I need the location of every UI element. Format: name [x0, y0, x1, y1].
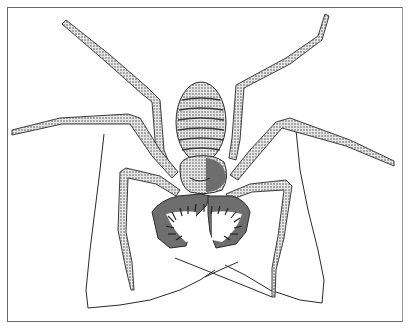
cephalothorax [180, 156, 227, 194]
pedipalps [152, 194, 250, 248]
abdomen [176, 82, 226, 162]
whip-spider-illustration [0, 0, 411, 330]
